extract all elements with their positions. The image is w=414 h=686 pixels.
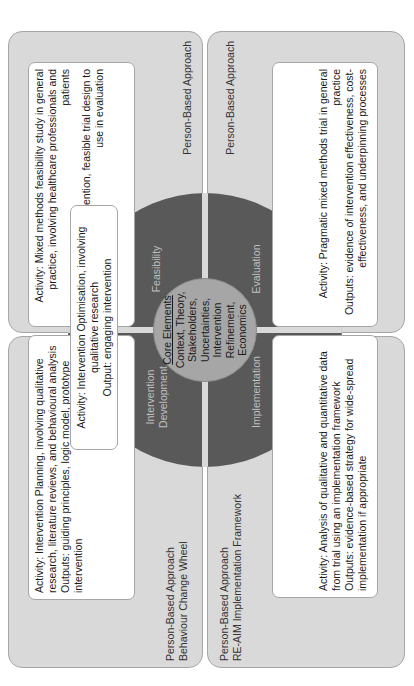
segment-line: Intervention: [144, 357, 157, 437]
approach-line: Person-Based Approach: [181, 41, 194, 186]
core-elements-circle: Core Elements Context, Theory, Stakehold…: [153, 278, 257, 382]
development-approach-label: Person-Based Approach Behaviour Change W…: [164, 461, 190, 661]
segment-label-implementation: Implementation: [250, 347, 263, 437]
activity-text: Activity: Mixed methods feasibility stud…: [33, 69, 72, 320]
feasibility-approach-label: Person-Based Approach: [181, 41, 194, 186]
activity-text: Activity: Intervention Planning, involvi…: [33, 342, 59, 593]
evaluation-activity-box: Activity: Pragmatic mixed methods trial …: [272, 62, 378, 327]
segment-label-development: Intervention Development: [144, 357, 170, 437]
activity-text: Activity: Pragmatic mixed methods trial …: [317, 69, 343, 320]
approach-line: Person-Based Approach: [164, 461, 177, 661]
approach-line: Person-Based Approach: [224, 41, 237, 186]
segment-line: Development: [157, 357, 170, 437]
implementation-approach-label: Person-Based Approach RE-AIM Implementat…: [218, 441, 244, 661]
framework-line: Behaviour Change Wheel: [177, 461, 190, 661]
core-element: Stakeholders,: [186, 298, 199, 362]
core-element: Refinement,: [224, 302, 237, 359]
evaluation-approach-label: Person-Based Approach: [224, 41, 237, 186]
core-element: Intervention: [211, 303, 224, 358]
outputs-text: Outputs: evidence of intervention effect…: [343, 69, 369, 320]
core-element: Uncertainties,: [199, 298, 212, 362]
segment-label-evaluation: Evaluation: [250, 229, 263, 309]
core-element: Context, Theory,: [174, 292, 187, 369]
outputs-text: Outputs: evidence-based strategy for wid…: [343, 342, 369, 591]
activity-text: Activity: Analysis of qualitative and qu…: [317, 342, 343, 591]
core-elements-title: Core Elements: [161, 295, 174, 364]
approach-line: Person-Based Approach: [218, 441, 231, 661]
output-text: Output: engaging intervention: [101, 214, 114, 441]
optimisation-activity-box: Activity: Intervention Optimisation, inv…: [70, 205, 118, 450]
implementation-activity-box: Activity: Analysis of qualitative and qu…: [272, 335, 378, 598]
core-element: Economics: [236, 304, 249, 355]
activity-text: Activity: Intervention Optimisation, inv…: [75, 214, 101, 441]
diagram-canvas: Person-Based Approach Behaviour Change W…: [0, 0, 414, 686]
framework-line: RE-AIM Implementation Framework: [231, 441, 244, 661]
